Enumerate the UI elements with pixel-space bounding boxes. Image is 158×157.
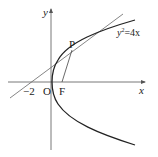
y-axis-arrow-icon (49, 8, 53, 13)
curve-label-rest: =4x (124, 27, 140, 38)
x-axis-label: x (138, 84, 144, 96)
x-axis (8, 80, 146, 84)
segment-pf (62, 50, 72, 82)
diagram-canvas: y x y2=4x P −2 O F (0, 0, 158, 157)
curve-equation-label: y2=4x (116, 27, 140, 38)
parabola-curve (52, 20, 135, 145)
point-p-label: P (69, 38, 75, 50)
origin-label: O (43, 85, 51, 97)
intercept-label: −2 (23, 85, 35, 97)
y-axis-label: y (42, 6, 48, 18)
focus-label: F (59, 85, 65, 97)
